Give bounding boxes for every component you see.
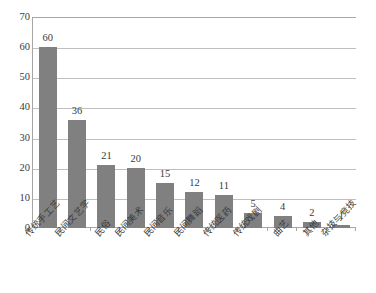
bar-value-label: 11 xyxy=(219,181,229,192)
bar-value-label: 36 xyxy=(72,106,83,117)
y-axis-tick-label: 30 xyxy=(0,132,30,143)
y-axis-tick-label: 60 xyxy=(0,42,30,53)
y-axis-tick-label: 70 xyxy=(0,12,30,23)
bar-slot: 20 xyxy=(121,18,150,228)
bar-value-label: 15 xyxy=(160,169,171,180)
bar-slot: 4 xyxy=(268,18,297,228)
bar-series: 60 36 21 20 15 xyxy=(33,18,356,228)
bar-value-label: 4 xyxy=(280,202,285,213)
bar-value-label: 21 xyxy=(101,151,112,162)
y-axis-tick-label: 10 xyxy=(0,193,30,204)
bar-slot: 11 xyxy=(209,18,238,228)
bar-value-label: 2 xyxy=(309,208,314,219)
bar-slot: 15 xyxy=(150,18,179,228)
bar-value-label: 12 xyxy=(189,178,200,189)
bar-slot: 21 xyxy=(92,18,121,228)
bar-slot: 36 xyxy=(62,18,91,228)
bar-slot: 2 xyxy=(297,18,326,228)
bar-value-label: 60 xyxy=(42,33,53,44)
bar-slot: 60 xyxy=(33,18,62,228)
y-axis-tick-label: 40 xyxy=(0,102,30,113)
bar-slot: 12 xyxy=(180,18,209,228)
plot-area: 60 36 21 20 15 xyxy=(32,17,356,228)
y-axis-tick-label: 50 xyxy=(0,72,30,83)
x-axis-labels: 传统手工艺 民间文艺学 民俗 民间美术 民间音乐 民间舞蹈 传统医药 传统戏剧 … xyxy=(32,232,356,292)
bar-slot: 5 xyxy=(239,18,268,228)
bar-value-label: 20 xyxy=(131,154,142,165)
bar-chart: 70 60 50 40 30 20 10 0 60 36 xyxy=(0,0,376,293)
bar-slot: 1 xyxy=(327,18,356,228)
y-axis-tick-label: 20 xyxy=(0,162,30,173)
